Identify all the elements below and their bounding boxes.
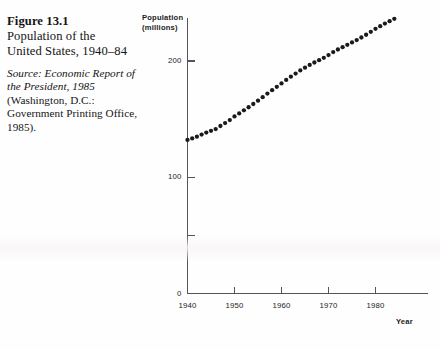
data-point	[303, 65, 307, 69]
data-point	[293, 71, 297, 75]
data-point	[387, 19, 391, 23]
x-tick-label: 1940	[168, 301, 208, 310]
data-point	[350, 40, 354, 44]
data-point	[237, 111, 241, 115]
x-tick-label: 1970	[309, 301, 349, 310]
data-point	[392, 17, 396, 21]
data-point	[378, 24, 382, 28]
data-point	[242, 108, 246, 112]
data-point	[256, 98, 260, 102]
data-point	[223, 121, 227, 125]
data-point	[364, 33, 368, 37]
data-point	[322, 56, 326, 60]
data-point	[232, 114, 236, 118]
data-point	[270, 88, 274, 92]
data-point	[279, 81, 283, 85]
data-point	[355, 38, 359, 42]
data-point	[317, 58, 321, 62]
data-point	[195, 135, 199, 139]
x-tick-label: 1960	[262, 301, 302, 310]
data-point	[204, 130, 208, 134]
y-tick-label: 0	[144, 289, 182, 298]
plot-canvas	[0, 0, 440, 349]
y-tick-label: 200	[144, 56, 182, 65]
y-tick-label: 100	[144, 172, 182, 181]
data-point	[331, 50, 335, 54]
data-point	[199, 132, 203, 136]
data-point	[214, 127, 218, 131]
data-point	[326, 53, 330, 57]
data-point	[218, 124, 222, 128]
x-tick-label: 1950	[215, 301, 255, 310]
data-point	[228, 118, 232, 122]
data-point	[359, 35, 363, 39]
data-point	[265, 91, 269, 95]
data-point	[289, 75, 293, 79]
data-point	[261, 95, 265, 99]
data-point	[336, 47, 340, 51]
figure-container: Figure 13.1 Population of the United Sta…	[0, 0, 440, 349]
data-point	[345, 43, 349, 47]
data-point	[340, 45, 344, 49]
data-point	[209, 129, 213, 133]
data-point	[373, 27, 377, 31]
data-point	[312, 60, 316, 64]
data-point	[298, 68, 302, 72]
data-point	[383, 21, 387, 25]
axes	[187, 18, 428, 294]
scatter-plot: Population (millions) Year 0100200194019…	[0, 0, 440, 349]
data-point	[251, 102, 255, 106]
axis-ticks	[188, 61, 376, 294]
data-point	[284, 78, 288, 82]
data-point	[275, 85, 279, 89]
x-tick-label: 1980	[356, 301, 396, 310]
data-point	[246, 105, 250, 109]
data-points	[185, 17, 396, 142]
data-point	[369, 30, 373, 34]
data-point	[185, 138, 189, 142]
data-point	[308, 63, 312, 67]
data-point	[190, 136, 194, 140]
